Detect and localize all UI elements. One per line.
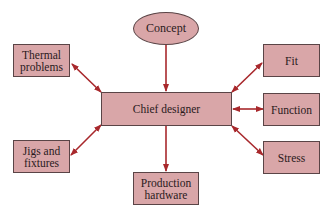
- node-function: Function: [263, 93, 320, 126]
- node-function-label: Function: [271, 104, 312, 116]
- node-fit: Fit: [263, 44, 320, 77]
- node-chief-designer: Chief designer: [101, 92, 232, 126]
- node-stress: Stress: [263, 141, 320, 174]
- node-production-line2: hardware: [145, 189, 188, 201]
- node-production-hardware: Production hardware: [133, 172, 199, 205]
- node-thermal-problems: Thermal problems: [13, 44, 70, 77]
- node-thermal-line2: problems: [20, 61, 63, 73]
- node-jigs-line1: Jigs and: [23, 145, 60, 157]
- node-production-line1: Production: [141, 177, 191, 189]
- arrow-chief-fit: [232, 63, 262, 92]
- arrow-chief-jigs: [71, 125, 101, 155]
- node-concept-label: Concept: [146, 21, 186, 36]
- node-chief-designer-label: Chief designer: [133, 103, 200, 115]
- node-jigs-line2: fixtures: [24, 157, 59, 169]
- node-stress-label: Stress: [278, 152, 305, 164]
- arrow-chief-stress: [232, 126, 263, 155]
- node-fit-label: Fit: [285, 55, 298, 67]
- arrow-chief-thermal: [72, 64, 101, 92]
- node-jigs-and-fixtures: Jigs and fixtures: [13, 140, 70, 173]
- node-thermal-line1: Thermal: [22, 49, 61, 61]
- node-concept: Concept: [133, 12, 199, 45]
